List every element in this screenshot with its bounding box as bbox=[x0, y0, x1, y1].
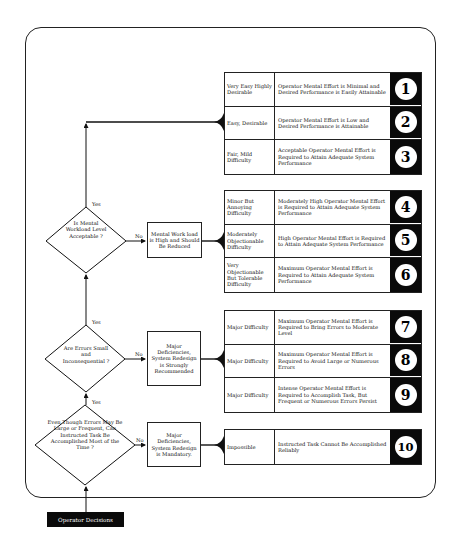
rating-number: 9 bbox=[395, 384, 417, 406]
decision-accomplish-question: Even Though Errors May Be Large or Frequ… bbox=[45, 419, 125, 450]
rating-row-7: Major Difficulty Maximum Operator Mental… bbox=[225, 311, 421, 345]
rating-number: 8 bbox=[395, 349, 417, 371]
difficulty-cell: Very Easy Highly Desirable bbox=[225, 73, 275, 106]
rating-number: 5 bbox=[395, 229, 417, 251]
demand-cell: Operator Mental Effort is Minimal and De… bbox=[275, 73, 390, 106]
rating-number: 3 bbox=[395, 146, 417, 168]
rating-number: 2 bbox=[395, 111, 417, 133]
rating-number: 1 bbox=[395, 78, 417, 100]
demand-cell: High Operator Mental Effort is Required … bbox=[275, 225, 390, 258]
demand-cell: Moderately High Operator Mental Effort i… bbox=[275, 191, 390, 224]
decision-workload-question: Is Mental Workload Level Acceptable ? bbox=[62, 220, 110, 239]
rating-number: 10 bbox=[395, 436, 417, 458]
rating-row-3: Fair, Mild Difficulty Acceptable Operato… bbox=[225, 140, 421, 174]
no-label-workload: No bbox=[135, 233, 143, 239]
rating-row-2: Easy, Desirable Operator Mental Effort i… bbox=[225, 107, 421, 141]
difficulty-cell: Fair, Mild Difficulty bbox=[225, 140, 275, 174]
difficulty-cell: Major Difficulty bbox=[225, 378, 275, 412]
demand-cell: Acceptable Operator Mental Effort is Req… bbox=[275, 140, 390, 174]
outcome-box-accomplish: Major Deficiencies, System Redesign is M… bbox=[147, 422, 201, 467]
demand-cell: Instructed Task Cannot Be Accomplished R… bbox=[275, 430, 390, 464]
rating-row-10: Impossible Instructed Task Cannot Be Acc… bbox=[225, 430, 421, 464]
rating-table-7-9: Major Difficulty Maximum Operator Mental… bbox=[224, 310, 422, 413]
yes-label-errors: Yes bbox=[92, 319, 101, 325]
difficulty-cell: Impossible bbox=[225, 430, 275, 464]
rating-row-9: Major Difficulty Intense Operator Mental… bbox=[225, 378, 421, 412]
rating-table-4-6: Minor But Annoying Difficulty Moderately… bbox=[224, 190, 422, 293]
demand-cell: Maximum Operator Mental Effort is Requir… bbox=[275, 345, 390, 378]
demand-cell: Intense Operator Mental Effort is Requir… bbox=[275, 378, 390, 412]
demand-cell: Operator Mental Effort is Low and Desire… bbox=[275, 107, 390, 140]
difficulty-cell: Minor But Annoying Difficulty bbox=[225, 191, 275, 224]
demand-cell: Maximum Operator Mental Effort is Requir… bbox=[275, 258, 390, 292]
rating-row-1: Very Easy Highly Desirable Operator Ment… bbox=[225, 73, 421, 107]
rating-row-6: Very Objectionable But Tolerable Difficu… bbox=[225, 258, 421, 292]
rating-number: 4 bbox=[395, 196, 417, 218]
decision-errors-question: Are Errors Small and Inconsequential ? bbox=[60, 345, 112, 364]
yes-label-workload: Yes bbox=[92, 201, 101, 207]
demand-cell: Maximum Operator Mental Effort is Requir… bbox=[275, 311, 390, 344]
rating-number: 7 bbox=[395, 316, 417, 338]
difficulty-cell: Very Objectionable But Tolerable Difficu… bbox=[225, 258, 275, 292]
outcome-box-errors: Major Deficiencies, System Redesign is S… bbox=[147, 331, 201, 386]
rating-table-1-3: Very Easy Highly Desirable Operator Ment… bbox=[224, 72, 422, 175]
yes-label-accomplish: Yes bbox=[92, 399, 101, 405]
no-label-errors: No bbox=[135, 351, 143, 357]
difficulty-cell: Moderately Objectionable Difficulty bbox=[225, 225, 275, 258]
rating-row-5: Moderately Objectionable Difficulty High… bbox=[225, 225, 421, 259]
rating-number: 6 bbox=[395, 264, 417, 286]
difficulty-cell: Major Difficulty bbox=[225, 345, 275, 378]
no-label-accomplish: No bbox=[136, 437, 144, 443]
outcome-box-workload: Mental Work load is High and Should Be R… bbox=[147, 222, 202, 258]
difficulty-cell: Major Difficulty bbox=[225, 311, 275, 344]
difficulty-cell: Easy, Desirable bbox=[225, 107, 275, 140]
rating-row-4: Minor But Annoying Difficulty Moderately… bbox=[225, 191, 421, 225]
rating-row-8: Major Difficulty Maximum Operator Mental… bbox=[225, 345, 421, 379]
operator-decisions-start: Operator Decisions bbox=[47, 512, 124, 527]
rating-table-10: Impossible Instructed Task Cannot Be Acc… bbox=[224, 429, 422, 465]
